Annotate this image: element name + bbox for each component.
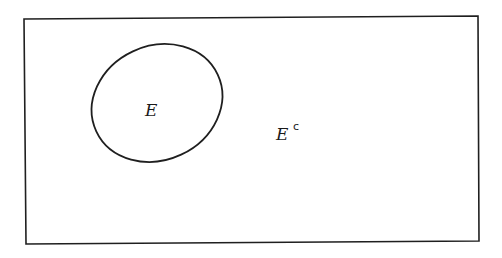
set-e-label: E (144, 100, 158, 120)
universe-rectangle (24, 16, 479, 244)
venn-diagram: E E c (0, 0, 502, 258)
complement-label-base: E (275, 124, 289, 144)
complement-label-superscript: c (293, 120, 299, 133)
